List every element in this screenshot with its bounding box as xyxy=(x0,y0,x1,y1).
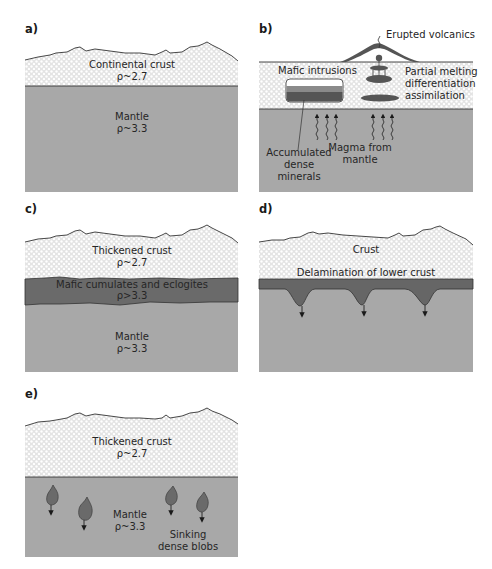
differentiation-label: differentiation xyxy=(405,78,476,89)
panel-e: e) Thickened crust ρ~2.7 Man xyxy=(25,387,238,557)
crust-density: ρ~2.7 xyxy=(117,257,148,268)
delamination-label: Delamination of lower crust xyxy=(297,267,436,278)
panel-label-d: d) xyxy=(259,202,273,216)
minerals-label: minerals xyxy=(277,171,320,182)
magma-chamber xyxy=(366,75,392,83)
mantle-density: ρ~3.3 xyxy=(117,343,148,354)
assimilation-label: assimilation xyxy=(405,90,465,101)
crust-label: Thickened crust xyxy=(91,245,171,256)
crust-label: Crust xyxy=(353,244,380,255)
mafic-intrusions-label: Mafic intrusions xyxy=(278,65,357,76)
crust-density: ρ~2.7 xyxy=(117,71,148,82)
panel-d: d) Crust Delamination of lower crust xyxy=(259,202,473,372)
mantle-label: Mantle xyxy=(115,331,149,342)
crustal-evolution-diagram: a) Continental crust ρ~2.7 Mantle ρ~3.3 … xyxy=(0,0,492,569)
dense-label: dense xyxy=(284,159,314,170)
mantle-label: Mantle xyxy=(113,509,147,520)
lower-magma-body xyxy=(361,95,399,102)
sill xyxy=(370,66,388,71)
mantle-layer xyxy=(25,86,238,192)
panel-label-b: b) xyxy=(259,22,273,36)
sinking-label: Sinking xyxy=(170,529,207,540)
panel-c: c) Thickened crust ρ~2.7 Mafic cumulates… xyxy=(25,202,238,372)
mantle-density: ρ~3.3 xyxy=(117,123,148,134)
accumulated-label: Accumulated xyxy=(266,147,331,158)
erupted-volcanics-label: Erupted volcanics xyxy=(386,29,475,40)
panel-label-c: c) xyxy=(25,202,37,216)
panel-b: b) Erupted vol xyxy=(259,22,478,192)
crust-label: Thickened crust xyxy=(91,436,171,447)
cumulates-density: ρ>3.3 xyxy=(117,290,148,301)
magma-conduit-blob xyxy=(376,55,382,61)
panel-label-e: e) xyxy=(25,387,38,401)
mantle-source-label: mantle xyxy=(342,154,377,165)
panel-a: a) Continental crust ρ~2.7 Mantle ρ~3.3 xyxy=(25,22,238,192)
crust-density: ρ~2.7 xyxy=(117,448,148,459)
mafic-intrusion xyxy=(286,79,343,102)
magma-label: Magma from xyxy=(328,142,391,153)
panel-label-a: a) xyxy=(25,22,38,36)
mantle-label: Mantle xyxy=(115,111,149,122)
partial-melting-label: Partial melting xyxy=(405,66,478,77)
cumulates-label: Mafic cumulates and eclogites xyxy=(56,279,208,290)
dense-blobs-label: dense blobs xyxy=(158,541,218,552)
mantle-density: ρ~3.3 xyxy=(115,521,146,532)
crust-label: Continental crust xyxy=(89,59,175,70)
